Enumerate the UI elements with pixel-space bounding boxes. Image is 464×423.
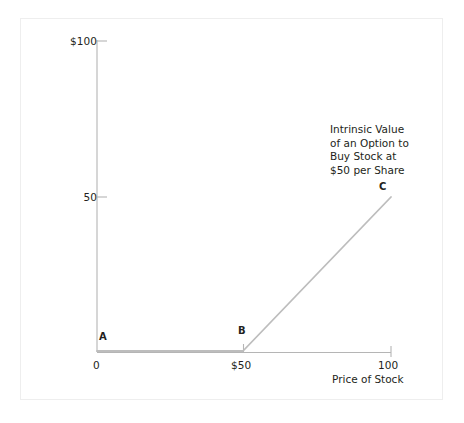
x-axis-tick-label-50: $50	[231, 360, 251, 371]
y-axis-tick-label-100: $100	[70, 36, 97, 47]
annotation-line-2: of an Option to	[330, 137, 409, 151]
x-axis-tick-label-0: 0	[93, 360, 100, 371]
annotation-line-4: $50 per Share	[330, 164, 409, 178]
annotation-line-3: Buy Stock at	[330, 150, 409, 164]
y-axis-tick-label-50: 50	[83, 192, 97, 203]
x-axis-tick-label-100: 100	[378, 360, 398, 371]
chart-figure: $100 50 0 $50 100 Price of Stock A B C I…	[0, 0, 464, 423]
point-label-c: C	[379, 182, 386, 192]
annotation-line-1: Intrinsic Value	[330, 123, 409, 137]
point-label-a: A	[99, 332, 107, 342]
series-annotation: Intrinsic Value of an Option to Buy Stoc…	[330, 123, 409, 177]
x-axis-title: Price of Stock	[332, 374, 403, 385]
point-label-b: B	[238, 326, 246, 336]
